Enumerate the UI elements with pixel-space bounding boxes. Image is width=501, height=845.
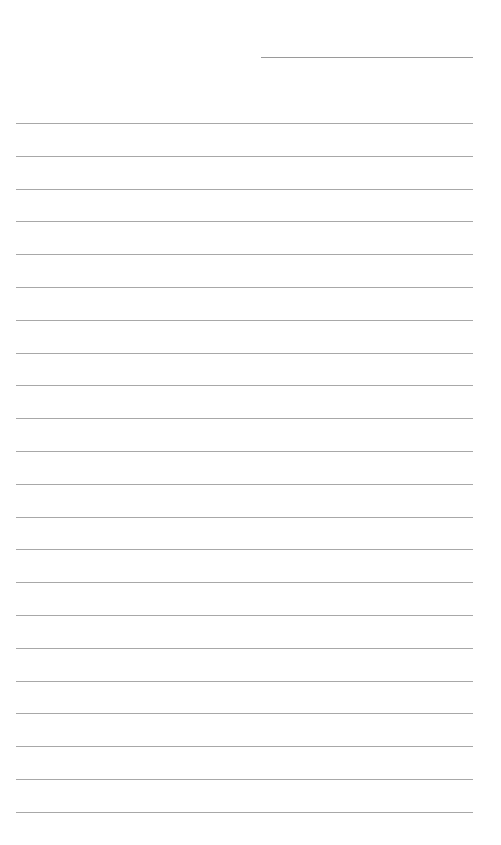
ruled-line [16, 353, 473, 354]
ruled-line [16, 123, 473, 124]
ruled-line [16, 549, 473, 550]
ruled-line [16, 254, 473, 255]
ruled-line [16, 189, 473, 190]
ruled-line [16, 385, 473, 386]
ruled-line [16, 517, 473, 518]
ruled-line [16, 484, 473, 485]
ruled-line [16, 779, 473, 780]
ruled-line [16, 320, 473, 321]
ruled-line [16, 648, 473, 649]
header-date-line [261, 57, 473, 58]
ruled-line [16, 615, 473, 616]
ruled-line [16, 582, 473, 583]
lined-paper-page [0, 0, 501, 845]
ruled-line [16, 713, 473, 714]
ruled-line [16, 156, 473, 157]
ruled-line [16, 812, 473, 813]
ruled-line [16, 746, 473, 747]
ruled-line [16, 681, 473, 682]
ruled-line [16, 418, 473, 419]
ruled-line [16, 451, 473, 452]
ruled-line [16, 287, 473, 288]
ruled-line [16, 221, 473, 222]
